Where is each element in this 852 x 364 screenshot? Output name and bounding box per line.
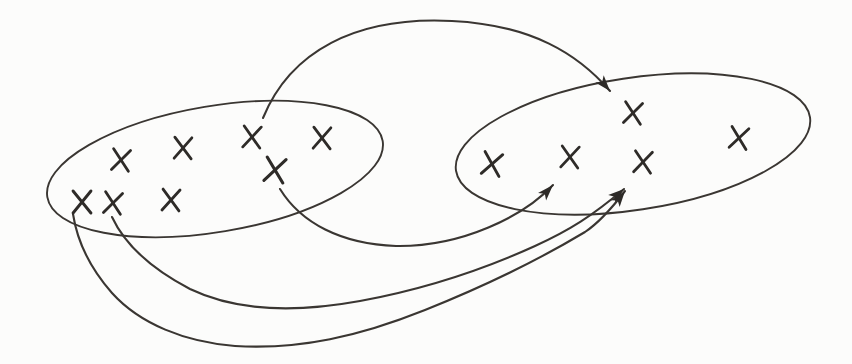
codomain-element-mark [634, 151, 653, 173]
domain-element-mark [174, 137, 192, 159]
set-mapping-diagram [0, 0, 852, 364]
domain-element-mark [264, 157, 286, 183]
domain-element-mark [111, 149, 130, 172]
codomain-element-mark [561, 146, 579, 168]
domain-element-mark [103, 192, 122, 215]
arrow-low-upper [112, 189, 624, 308]
domain-element-mark [313, 127, 331, 149]
codomain-element-mark [729, 126, 749, 149]
domain-element-mark [243, 126, 261, 148]
codomain-element-mark [623, 102, 642, 125]
codomain-ellipse [446, 52, 820, 236]
codomain-element-mark [481, 152, 502, 177]
arrow-middle [280, 185, 553, 246]
diagram-svg [0, 0, 852, 364]
domain-element-mark [162, 189, 180, 211]
domain-element-mark [73, 191, 91, 213]
domain-ellipse [37, 79, 393, 259]
